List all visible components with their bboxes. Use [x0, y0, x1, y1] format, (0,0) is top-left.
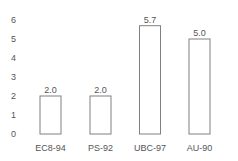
y-tick-label: 4 — [11, 53, 16, 63]
y-tick-label: 0 — [11, 129, 16, 139]
bar-value-label: 2.0 — [94, 85, 107, 95]
bar-group: 5.7UBC-97 — [134, 15, 166, 153]
bars: 2.0EC8-942.0PS-925.7UBC-975.0AU-90 — [35, 15, 212, 153]
bar-value-label: 5.0 — [193, 28, 206, 38]
y-tick-label: 1 — [11, 110, 16, 120]
x-category-label: UBC-97 — [134, 143, 166, 153]
bar-group: 2.0EC8-94 — [35, 85, 66, 153]
bar-value-label: 2.0 — [44, 85, 57, 95]
bar — [189, 39, 210, 134]
x-category-label: AU-90 — [187, 143, 213, 153]
bar-chart: 0123456 2.0EC8-942.0PS-925.7UBC-975.0AU-… — [0, 0, 238, 161]
y-tick-label: 2 — [11, 91, 16, 101]
x-category-label: EC8-94 — [35, 143, 66, 153]
x-category-label: PS-92 — [88, 143, 113, 153]
bar-group: 2.0PS-92 — [88, 85, 113, 153]
bar — [40, 96, 61, 134]
bar-group: 5.0AU-90 — [187, 28, 213, 153]
y-tick-label: 3 — [11, 72, 16, 82]
bar-value-label: 5.7 — [144, 15, 157, 25]
y-tick-label: 5 — [11, 34, 16, 44]
bar — [140, 26, 161, 134]
y-axis: 0123456 — [11, 15, 16, 139]
bar — [90, 96, 111, 134]
y-tick-label: 6 — [11, 15, 16, 25]
